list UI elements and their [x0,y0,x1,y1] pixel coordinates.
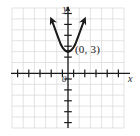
origin-label: 0 [62,75,67,84]
y-axis-label: y [63,4,67,14]
x-axis-label: x [128,74,132,84]
graph-canvas [0,0,140,136]
parabola-figure: y x 0 (0, 3) [0,0,140,136]
axes [11,7,130,128]
vertex-point [67,50,70,53]
vertex-label: (0, 3) [75,44,100,55]
